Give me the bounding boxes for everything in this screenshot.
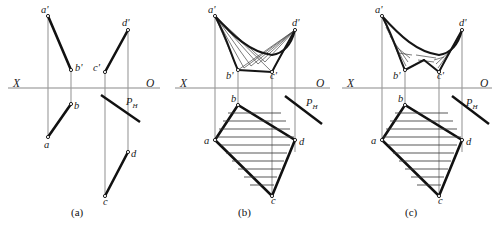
- panel-b-label-a: a: [204, 136, 209, 147]
- panel-b-node-d: [293, 138, 296, 141]
- panel-a-label-c-prime: c': [93, 63, 100, 74]
- panel-c-label-b-prime: b': [393, 71, 401, 82]
- panel-c-front-edge-ab: [382, 16, 405, 70]
- panel-c-label-b: b: [398, 94, 403, 105]
- panel-b-node-a: [213, 138, 216, 141]
- panel-a-trace-sub: H: [132, 102, 137, 110]
- panel-c-label-c: c: [438, 196, 443, 207]
- panel-b-label-x: X: [180, 78, 187, 90]
- panel-c-front-envelope: [382, 16, 462, 55]
- panel-c-label-a-prime: a': [375, 5, 383, 16]
- panel-a-label-x: X: [13, 78, 20, 90]
- panel-a-label-c: c: [103, 197, 108, 208]
- panel-a-node-d: [126, 150, 129, 153]
- panel-b-top-quad: [215, 105, 295, 196]
- panel-a-label-a-prime: a': [41, 5, 49, 16]
- panel-c-node-a: [380, 138, 383, 141]
- panel-a-caption: (a): [71, 206, 83, 218]
- panel-a-node-c-prime: [103, 70, 106, 73]
- panel-c-label-c-prime: c': [437, 71, 444, 82]
- panel-a-label-o: O: [146, 78, 154, 90]
- panel-b-node-d-prime: [293, 28, 296, 31]
- panel-a-label-d: d: [131, 149, 136, 160]
- panel-b-label-b: b: [231, 94, 236, 105]
- panel-b-label-o: O: [316, 78, 324, 90]
- panel-a-node-b: [69, 102, 72, 105]
- panel-a-edge-cd-front: [105, 30, 128, 72]
- panel-c-node-d: [460, 138, 463, 141]
- panel-a-edge-cd-top: [105, 152, 128, 196]
- panel-c-trace-sub: H: [472, 103, 477, 111]
- panel-c-caption: (c): [405, 206, 417, 218]
- panel-a-edge-ab-top: [48, 104, 71, 137]
- panel-c-label-d: d: [466, 137, 471, 148]
- panel-b-label-a-prime: a': [208, 5, 216, 16]
- panel-c-label-a: a: [371, 136, 376, 147]
- panel-b-trace-sub: H: [312, 103, 317, 111]
- panel-a-node-b-prime: [69, 68, 72, 71]
- panel-c-label-o: O: [480, 78, 488, 90]
- panel-c-node-b: [403, 103, 406, 106]
- panel-b-label-b-prime: b': [226, 71, 234, 82]
- panel-a-label-b: b: [74, 101, 79, 112]
- panel-c-node-d-prime: [460, 28, 463, 31]
- panel-c-label-d-prime: d': [459, 18, 467, 29]
- panel-c-front-edge-cd: [439, 30, 462, 72]
- panel-a-label-d-prime: d': [122, 18, 130, 29]
- panel-b-node-b: [236, 103, 239, 106]
- panel-a-edge-ab-front: [48, 16, 71, 70]
- panel-b-label-d-prime: d': [292, 18, 300, 29]
- panel-c-label-trace-ph: PH: [466, 98, 477, 111]
- figure-container: X O a' b' c' d' a b c d PH (a) X O a' b'…: [0, 0, 497, 230]
- panel-c-node-b-prime: [403, 68, 406, 71]
- panel-b-node-b-prime: [236, 68, 239, 71]
- panel-b-front-envelope: [215, 16, 295, 55]
- panel-a-node-d-prime: [126, 28, 129, 31]
- panel-c-label-x: X: [347, 78, 354, 90]
- panel-a-label-a: a: [44, 140, 49, 151]
- panel-b-caption: (b): [238, 206, 251, 218]
- panel-b-label-d: d: [299, 137, 304, 148]
- panel-b-label-trace-ph: PH: [306, 98, 317, 111]
- panel-b-label-c-prime: c': [270, 71, 277, 82]
- panel-b-front-edge-bc: [238, 70, 272, 72]
- panel-a-label-b-prime: b': [75, 63, 83, 74]
- panel-a-label-trace-ph: PH: [126, 97, 137, 110]
- panel-b-label-c: c: [271, 196, 276, 207]
- panel-c-top-quad: [382, 105, 462, 196]
- figure-drawing: [0, 0, 497, 230]
